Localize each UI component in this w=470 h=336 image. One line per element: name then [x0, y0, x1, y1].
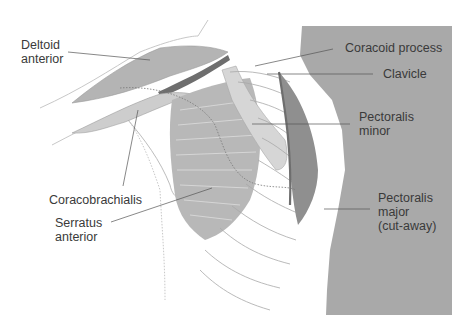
- label-deltoid-anterior: Deltoid anterior: [21, 38, 63, 66]
- label-pectoralis-minor: Pectoralis minor: [359, 110, 414, 138]
- label-coracobrachialis: Coracobrachialis: [49, 193, 142, 207]
- label-serratus-anterior: Serratus anterior: [55, 216, 102, 244]
- torso-silhouette: [300, 26, 452, 315]
- label-clavicle: Clavicle: [383, 67, 427, 81]
- label-pectoralis-major: Pectoralis major (cut-away): [378, 191, 436, 233]
- axilla-outline: [125, 115, 165, 300]
- label-coracoid-process: Coracoid process: [345, 41, 442, 55]
- anatomy-diagram: Deltoid anterior Coracoid process Clavic…: [0, 0, 470, 336]
